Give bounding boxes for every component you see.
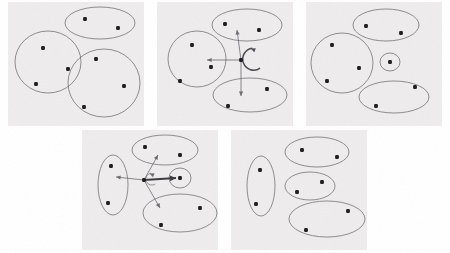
paper-grain-layer (0, 0, 450, 253)
figure-root: the resultsnumber of clustersclusteringa… (0, 0, 450, 253)
diagram-canvas: the resultsnumber of clustersclusteringa… (0, 0, 450, 253)
